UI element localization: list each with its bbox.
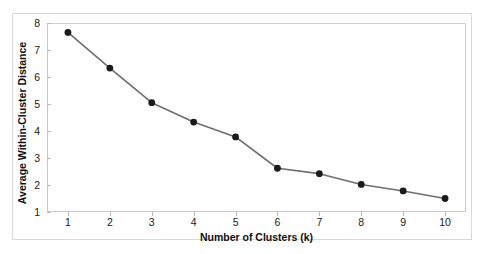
data-point-marker bbox=[148, 99, 155, 106]
data-point-marker bbox=[106, 65, 113, 72]
data-point-marker bbox=[316, 170, 323, 177]
data-point-marker bbox=[358, 181, 365, 188]
series-markers bbox=[65, 29, 449, 202]
data-point-marker bbox=[442, 195, 449, 202]
series-layer bbox=[0, 0, 486, 254]
series-line bbox=[68, 32, 445, 198]
data-point-marker bbox=[65, 29, 72, 36]
data-point-marker bbox=[400, 188, 407, 195]
data-point-marker bbox=[190, 119, 197, 126]
chart-canvas: 1234567812345678910 Average Within-Clust… bbox=[0, 0, 486, 254]
data-point-marker bbox=[232, 134, 239, 141]
data-point-marker bbox=[274, 165, 281, 172]
